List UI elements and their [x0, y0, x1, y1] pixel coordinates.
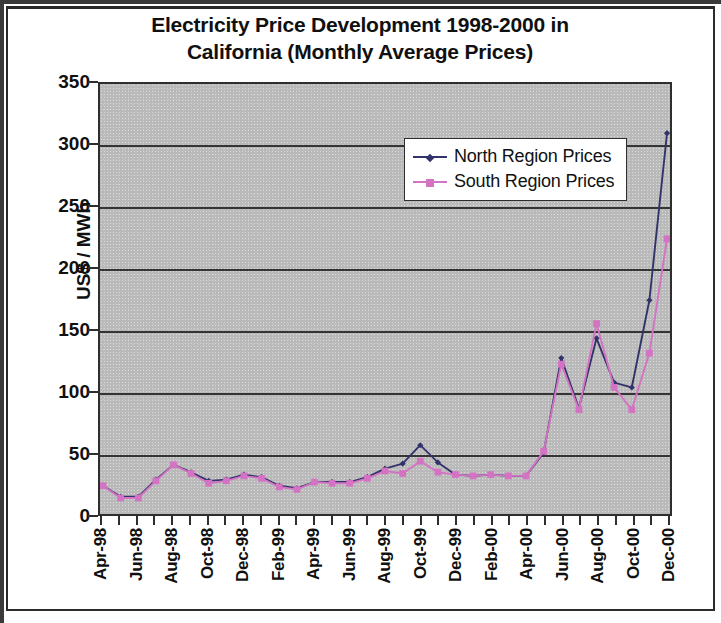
data-point-south	[558, 361, 565, 368]
legend-marker-north-icon	[413, 150, 447, 164]
data-point-south	[628, 406, 635, 413]
x-axis-tick	[313, 516, 315, 525]
data-point-south	[417, 458, 424, 465]
y-axis-tick	[88, 453, 98, 455]
x-axis-tick	[242, 516, 244, 525]
data-point-south	[523, 473, 530, 480]
legend-label-north: North Region Prices	[454, 146, 611, 167]
x-axis-tick-label: Feb-00	[482, 528, 502, 581]
data-point-south	[329, 480, 336, 487]
x-axis-tick-label: Aug-99	[375, 528, 395, 584]
data-point-south	[364, 475, 371, 482]
x-axis-tick	[579, 516, 581, 525]
y-axis-tick-label: 0	[38, 505, 90, 527]
data-point-south	[100, 482, 106, 489]
data-point-south	[223, 477, 230, 484]
y-axis-tick	[88, 205, 98, 207]
chart-container: Electricity Price Development 1998-2000 …	[0, 0, 721, 623]
x-axis-tick	[526, 516, 528, 525]
x-axis-tick-label: Aug-98	[162, 528, 182, 584]
y-axis-tick	[88, 329, 98, 331]
legend-item-south[interactable]: South Region Prices	[413, 169, 614, 194]
y-axis-tick	[88, 81, 98, 83]
x-axis-tick	[260, 516, 262, 525]
y-axis-tick	[88, 267, 98, 269]
y-axis-tick	[88, 143, 98, 145]
data-point-south	[311, 479, 318, 486]
x-axis-tick	[171, 516, 173, 525]
x-axis-tick-label: Jun-98	[127, 528, 147, 581]
y-axis-tick-label: 100	[38, 381, 90, 403]
data-point-south	[152, 477, 159, 484]
y-axis-tick	[88, 391, 98, 393]
data-point-south	[646, 350, 653, 357]
x-axis-tick-label: Jun-99	[340, 528, 360, 581]
data-point-north	[629, 384, 635, 390]
x-axis-tick-label: Dec-00	[659, 528, 679, 582]
data-point-south	[452, 471, 459, 478]
x-axis-tick	[562, 516, 564, 525]
page-top-edge	[0, 0, 721, 4]
x-axis-tick	[455, 516, 457, 525]
series-line-south	[103, 239, 667, 498]
y-axis-tick-label: 200	[38, 257, 90, 279]
x-axis-tick	[278, 516, 280, 525]
data-point-south	[540, 448, 547, 455]
x-axis-tick	[544, 516, 546, 525]
data-point-north	[558, 355, 564, 361]
x-axis-tick	[650, 516, 652, 525]
x-axis-tick-label: Dec-99	[446, 528, 466, 582]
x-axis-tick-label: Apr-99	[304, 528, 324, 580]
x-axis-tick	[508, 516, 510, 525]
x-axis-tick	[437, 516, 439, 525]
x-axis-tick	[491, 516, 493, 525]
x-axis-tick	[615, 516, 617, 525]
data-point-south	[117, 495, 124, 502]
legend-marker-south-icon	[413, 175, 447, 189]
x-axis-tick	[153, 516, 155, 525]
y-axis-tick-labels: 350300250200150100500	[38, 82, 90, 516]
legend-label-south: South Region Prices	[454, 171, 614, 192]
y-axis-tick-label: 350	[38, 71, 90, 93]
x-axis-tick	[118, 516, 120, 525]
x-axis-tick	[349, 516, 351, 525]
y-axis-tick-label: 300	[38, 133, 90, 155]
chart-legend: North Region Prices South Region Prices	[404, 138, 627, 201]
y-axis-tick-label: 150	[38, 319, 90, 341]
x-axis-tick-label: Oct-99	[411, 528, 431, 579]
data-point-south	[135, 495, 142, 502]
data-point-south	[505, 473, 512, 480]
data-point-south	[258, 475, 265, 482]
data-point-south	[241, 473, 248, 480]
legend-item-north[interactable]: North Region Prices	[413, 144, 614, 169]
x-axis-tick	[331, 516, 333, 525]
data-point-south	[170, 461, 177, 468]
x-axis-tick-label: Aug-00	[588, 528, 608, 584]
data-point-south	[664, 235, 670, 242]
y-axis-tick	[88, 515, 98, 517]
y-axis-tick-label: 50	[38, 443, 90, 465]
data-point-south	[593, 320, 600, 327]
x-axis-tick-label: Apr-98	[91, 528, 111, 580]
x-axis-tick-label: Jun-00	[553, 528, 573, 581]
x-axis-tick	[207, 516, 209, 525]
x-axis-tick	[366, 516, 368, 525]
page-left-edge	[0, 0, 4, 623]
x-axis-tick	[668, 516, 670, 525]
data-point-south	[188, 470, 195, 477]
x-axis-tick	[189, 516, 191, 525]
x-axis-tick	[224, 516, 226, 525]
data-point-south	[346, 480, 353, 487]
x-axis-tick-label: Apr-00	[517, 528, 537, 580]
x-axis-tick-label: Dec-98	[233, 528, 253, 582]
data-point-south	[487, 471, 494, 478]
x-axis-tick	[384, 516, 386, 525]
x-axis-tick	[633, 516, 635, 525]
x-axis-tick-label: Oct-98	[198, 528, 218, 579]
data-point-south	[382, 468, 389, 475]
x-axis-tick-labels: Apr-98Jun-98Aug-98Oct-98Dec-98Feb-99Apr-…	[98, 528, 672, 614]
data-point-south	[611, 384, 618, 391]
x-axis-tick	[295, 516, 297, 525]
x-axis-tick	[597, 516, 599, 525]
data-point-south	[276, 484, 283, 491]
